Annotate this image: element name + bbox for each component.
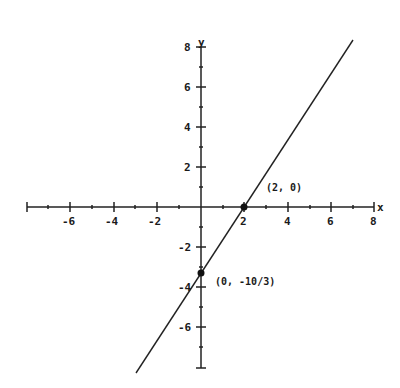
intercept-point-y [198,270,205,277]
y-tick-label: 6 [184,81,191,94]
point-label-y-intercept: (0, -10/3) [215,276,275,287]
x-tick-label: 4 [284,215,291,228]
x-tick-label: 2 [240,215,247,228]
y-tick-label: 4 [184,121,191,134]
x-tick-label: -2 [148,215,161,228]
x-tick-label: -4 [105,215,119,228]
coordinate-plane: y x -6 -4 -2 2 4 6 8 8 6 4 2 -2 -4 -6 (2… [0,0,400,388]
y-tick-label: 8 [184,41,191,54]
x-tick-label: -6 [62,215,76,228]
y-tick-label: -6 [178,321,192,334]
y-tick-label: -2 [178,241,191,254]
x-tick-label: 8 [370,215,377,228]
y-axis-label: y [198,36,205,49]
x-axis-label: x [377,201,384,214]
point-label-x-intercept: (2, 0) [266,182,302,193]
y-tick-label: -4 [178,281,192,294]
intercept-point-x [241,204,248,211]
y-tick-label: 2 [184,161,191,174]
x-tick-label: 6 [327,215,334,228]
